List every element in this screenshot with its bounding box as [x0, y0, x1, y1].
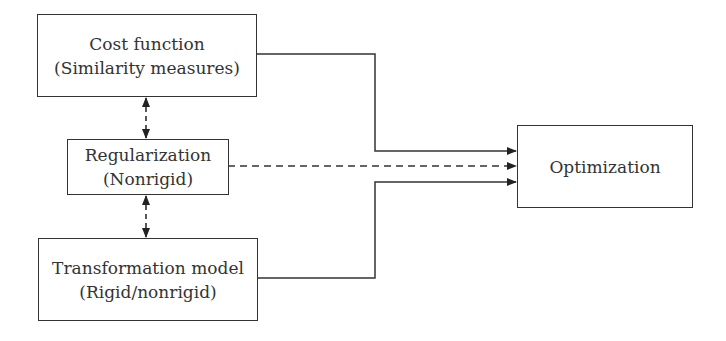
node-title: Regularization: [85, 143, 211, 167]
node-subtitle: (Rigid/nonrigid): [79, 280, 216, 304]
node-regularization: Regularization (Nonrigid): [67, 139, 229, 195]
diagram-canvas: Cost function (Similarity measures) Regu…: [0, 0, 726, 341]
node-cost-function: Cost function (Similarity measures): [37, 14, 257, 97]
node-title: Optimization: [549, 155, 660, 179]
node-title: Cost function: [89, 32, 204, 56]
node-subtitle: (Similarity measures): [54, 56, 240, 80]
node-optimization: Optimization: [517, 125, 693, 208]
node-title: Transformation model: [52, 256, 244, 280]
node-subtitle: (Nonrigid): [103, 167, 193, 191]
node-transformation-model: Transformation model (Rigid/nonrigid): [38, 238, 258, 321]
edge-cost-opt: [256, 54, 516, 151]
edge-trans-opt: [257, 182, 516, 278]
